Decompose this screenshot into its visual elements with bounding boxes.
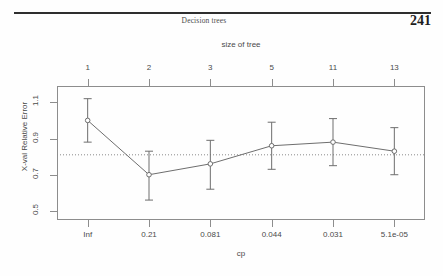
data-point-marker: [147, 172, 152, 177]
x-axis-top-tick-label: 2: [147, 63, 151, 72]
x-axis-bottom-tick: [88, 220, 89, 227]
chart-plot-area: size of tree X-val Relative Error 123511…: [0, 36, 443, 276]
running-head-title: Decision trees: [14, 16, 394, 25]
y-axis-tick: [50, 139, 57, 140]
x-axis-top-tick-label: 3: [208, 63, 212, 72]
x-axis-top-tick-label: 13: [390, 63, 399, 72]
x-axis-bottom-tick-label: Inf: [83, 230, 92, 239]
x-axis-bottom-tick-label: 0.21: [141, 230, 157, 239]
running-head: Decision trees 241: [14, 12, 431, 34]
plot-series-svg: [57, 86, 425, 220]
x-axis-top-tick: [333, 79, 334, 86]
x-axis-title: cp: [57, 249, 425, 258]
x-axis-bottom-tick-label: 5.1e-05: [381, 230, 408, 239]
x-axis-top-tick: [149, 79, 150, 86]
y-axis-tick: [50, 175, 57, 176]
data-point-marker: [269, 143, 274, 148]
y-axis-tick-label: 0.9: [31, 126, 40, 148]
y-axis-tick: [50, 102, 57, 103]
y-axis-tick-label: 0.7: [31, 162, 40, 184]
top-axis-title: size of tree: [57, 40, 425, 49]
x-axis-top-tick-label: 11: [329, 63, 337, 72]
x-axis-top-tick-label: 5: [269, 63, 273, 72]
x-axis-top-tick: [272, 79, 273, 86]
y-axis-tick: [50, 211, 57, 212]
x-axis-top-tick: [210, 79, 211, 86]
data-point-marker: [208, 162, 213, 167]
x-axis-bottom-tick: [394, 220, 395, 227]
data-point-marker: [392, 149, 397, 154]
y-axis-tick-label: 0.5: [31, 198, 40, 220]
x-axis-bottom-tick: [210, 220, 211, 227]
x-axis-top-tick: [88, 79, 89, 86]
data-point-marker: [85, 118, 90, 123]
y-axis-tick-label: 1.1: [31, 90, 40, 112]
x-axis-bottom-tick: [333, 220, 334, 227]
data-point-marker: [331, 140, 336, 145]
series-line: [88, 120, 395, 174]
x-axis-bottom-tick-label: 0.031: [323, 230, 343, 239]
page-canvas: Decision trees 241 size of tree X-val Re…: [0, 0, 443, 276]
x-axis-bottom-tick-label: 0.044: [262, 230, 282, 239]
x-axis-bottom-tick-label: 0.081: [200, 230, 220, 239]
x-axis-top-tick-label: 1: [85, 63, 89, 72]
y-axis-title: X-val Relative Error: [20, 67, 29, 207]
x-axis-bottom-tick: [272, 220, 273, 227]
x-axis-top-tick: [394, 79, 395, 86]
page-number: 241: [410, 13, 431, 29]
header-divider: [14, 12, 431, 14]
x-axis-bottom-tick: [149, 220, 150, 227]
